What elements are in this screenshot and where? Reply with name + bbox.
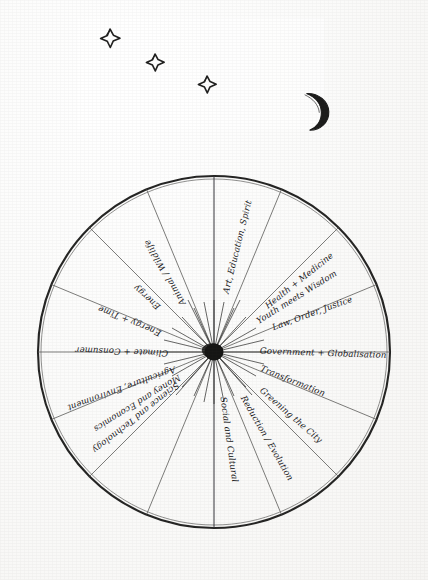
- wheel-label-transformation: Transformation: [0, 150, 391, 420]
- sky-vignette: [0, 0, 428, 160]
- wheel-label-greening-the-city: Greening the City: [0, 150, 361, 469]
- wheel-hub[interactable]: [202, 343, 224, 360]
- wheel-label-youth-meets-wisdom: Youth meets Wisdom: [0, 150, 377, 326]
- theme-wheel[interactable]: Art, Education, Spirit Youth meets Wisdo…: [0, 150, 428, 580]
- wheel-label-science-and-technology: Science and Technology: [59, 380, 428, 562]
- wheel-label-climate-consumer: Climate + Consumer: [18, 344, 428, 562]
